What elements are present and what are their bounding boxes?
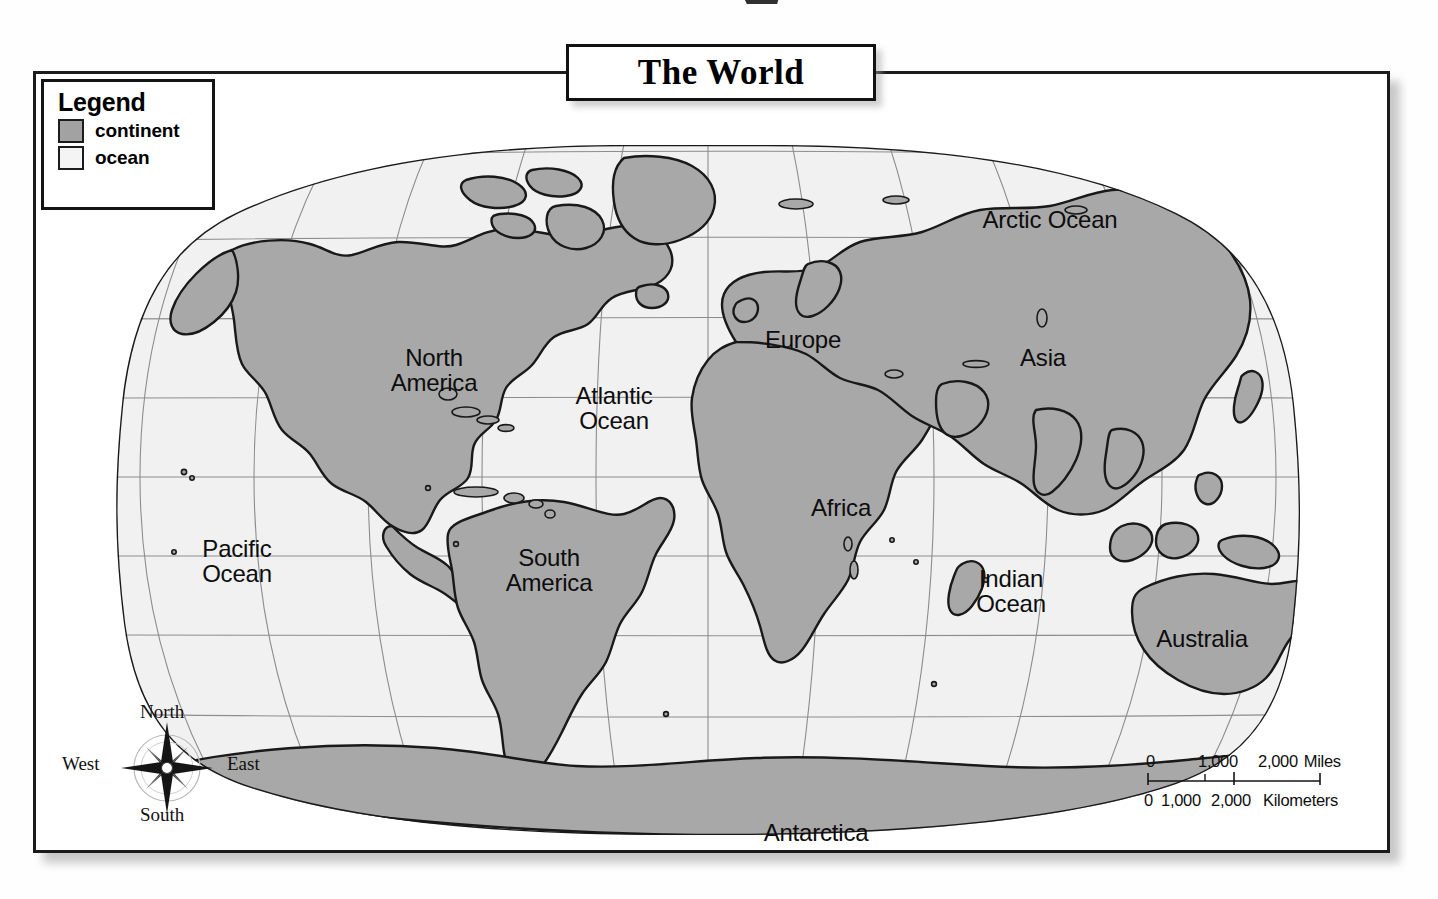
scale-miles-tick-2: 2,000 [1258,752,1298,771]
scale-ruler-icon [1146,772,1322,785]
legend-heading: Legend [58,89,212,115]
landmass-baffin [547,205,604,249]
scale-miles-labels: 0 1,000 2,000 Miles [1143,752,1358,771]
scale-bar: 0 1,000 2,000 Miles 0 1,000 2,000 Kilome… [1143,752,1358,810]
legend-label-continent: continent [95,120,180,142]
compass-label-north: North [140,701,184,723]
legend: Legend continent ocean [41,79,215,210]
page-title: The World [638,55,804,90]
legend-item-continent[interactable]: continent [58,119,212,143]
legend-swatch-continent-icon [58,119,84,143]
scale-km-unit: Kilometers [1263,791,1338,810]
scan-artifact [744,0,780,4]
scale-km-tick-0: 0 [1144,791,1161,810]
map-page: North America South America Europe Asia … [0,0,1438,899]
scale-miles-unit: Miles [1304,752,1341,771]
scale-miles-tick-1: 1,000 [1198,752,1258,771]
legend-item-ocean[interactable]: ocean [58,146,212,170]
compass-label-south: South [140,804,184,826]
landmass-british-isles [733,298,758,322]
legend-label-ocean: ocean [95,147,149,169]
compass-label-west: West [62,753,100,775]
legend-swatch-ocean-icon [58,146,84,170]
map-title-box: The World [566,44,876,101]
compass-label-east: East [227,753,260,775]
landmass-philippines [1195,473,1222,505]
scale-miles-tick-0: 0 [1146,752,1198,771]
landmass-newfoundland [636,284,668,308]
scale-km-tick-1: 1,000 [1161,791,1211,810]
scale-km-tick-2: 2,000 [1211,791,1263,810]
landmass-new-zealand [1298,690,1330,733]
scale-kilometers-labels: 0 1,000 2,000 Kilometers [1143,791,1358,810]
compass-rose[interactable]: North South West East [62,703,272,833]
